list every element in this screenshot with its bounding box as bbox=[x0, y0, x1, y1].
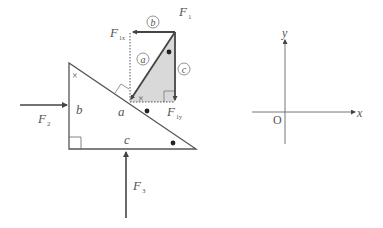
right-angle-mark-large bbox=[69, 137, 81, 149]
svg-text:F: F bbox=[132, 178, 142, 193]
angle-cross-small: × bbox=[138, 93, 144, 104]
svg-text:1x: 1x bbox=[119, 35, 125, 41]
angle-dot-large bbox=[171, 141, 176, 146]
force-diagram: × × b a c F 1 F 1x F 1y F 2 F 3 b a c bbox=[0, 0, 383, 228]
svg-text:F: F bbox=[109, 25, 119, 40]
coordinate-axes: y x O bbox=[252, 26, 363, 144]
svg-text:F: F bbox=[37, 111, 47, 126]
svg-text:2: 2 bbox=[47, 120, 51, 128]
large-triangle bbox=[69, 63, 196, 149]
right-angle-mark-normal bbox=[115, 84, 129, 93]
angle-dot-hypotenuse bbox=[145, 109, 150, 114]
side-label-c: c bbox=[124, 132, 130, 147]
svg-text:F: F bbox=[166, 104, 176, 119]
angle-dot-small-top bbox=[167, 50, 172, 55]
angle-cross-top: × bbox=[72, 70, 78, 81]
x-axis-label: x bbox=[356, 106, 363, 120]
side-label-b: b bbox=[76, 102, 83, 117]
label-f1y: F 1y bbox=[166, 104, 182, 120]
circled-label-a: a bbox=[137, 53, 149, 65]
circled-label-b: b bbox=[147, 16, 159, 28]
svg-text:1y: 1y bbox=[176, 114, 182, 120]
label-f1: F 1 bbox=[178, 4, 192, 21]
label-f3: F 3 bbox=[132, 178, 146, 195]
svg-text:3: 3 bbox=[142, 187, 146, 195]
svg-text:a: a bbox=[141, 54, 146, 65]
triangle-outline bbox=[69, 63, 196, 149]
label-f2: F 2 bbox=[37, 111, 51, 128]
y-axis-label: y bbox=[281, 26, 288, 40]
svg-text:c: c bbox=[182, 64, 187, 75]
label-f1x: F 1x bbox=[109, 25, 125, 41]
svg-text:1: 1 bbox=[188, 13, 192, 21]
circled-label-c: c bbox=[178, 63, 190, 75]
svg-text:F: F bbox=[178, 4, 188, 19]
side-label-a: a bbox=[118, 104, 125, 119]
origin-label: O bbox=[273, 113, 282, 127]
svg-text:b: b bbox=[151, 17, 156, 28]
